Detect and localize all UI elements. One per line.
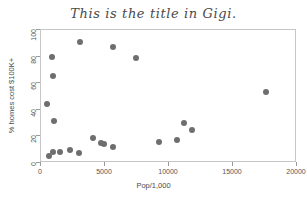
- data-point: [181, 120, 187, 126]
- y-tick-label: 100: [31, 29, 38, 41]
- x-tick: [168, 162, 169, 166]
- x-tick-label: 15000: [222, 168, 241, 175]
- data-point: [67, 147, 73, 153]
- data-point: [189, 127, 195, 133]
- x-axis-label: Pop/1,000: [0, 181, 307, 190]
- y-tick-label: 60: [31, 82, 38, 90]
- data-point: [77, 39, 83, 45]
- data-point: [51, 118, 57, 124]
- x-axis: 05000100001500020000: [40, 162, 296, 182]
- x-tick-label: 20000: [286, 168, 305, 175]
- chart-title: This is the title in Gigi.: [0, 6, 307, 21]
- x-tick: [232, 162, 233, 166]
- y-axis: 020406080100: [0, 29, 40, 162]
- scatter-plot-figure: This is the title in Gigi. % homes cost …: [0, 0, 307, 201]
- data-point: [57, 149, 63, 155]
- data-point: [156, 139, 162, 145]
- y-tick-label: 80: [31, 56, 38, 64]
- data-point: [101, 141, 107, 147]
- data-point: [49, 54, 55, 60]
- data-point: [44, 101, 50, 107]
- data-point: [174, 137, 180, 143]
- data-point: [76, 150, 82, 156]
- data-point: [50, 149, 56, 155]
- data-point: [50, 73, 56, 79]
- x-tick-label: 0: [38, 168, 42, 175]
- data-points-layer: [41, 30, 295, 161]
- data-point: [110, 144, 116, 150]
- x-tick: [40, 162, 41, 166]
- data-point: [90, 135, 96, 141]
- plot-area: [40, 29, 296, 162]
- y-tick-label: 40: [31, 109, 38, 117]
- x-tick: [296, 162, 297, 166]
- x-tick-label: 5000: [96, 168, 112, 175]
- data-point: [133, 55, 139, 61]
- data-point: [263, 89, 269, 95]
- data-point: [110, 44, 116, 50]
- x-tick-label: 10000: [158, 168, 177, 175]
- y-tick-label: 0: [31, 162, 38, 166]
- x-tick: [104, 162, 105, 166]
- y-tick-label: 20: [31, 135, 38, 143]
